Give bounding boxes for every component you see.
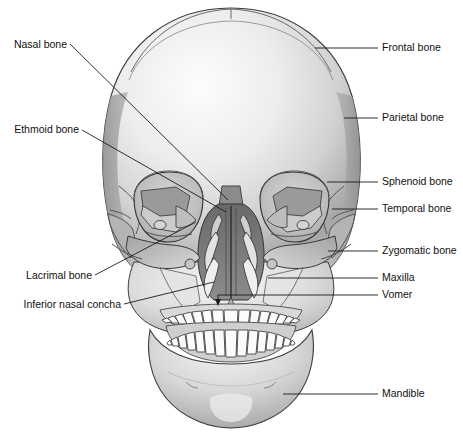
labels-right-group: Frontal bone Parietal bone Sphenoid bone… xyxy=(382,41,457,399)
label-vomer: Vomer xyxy=(382,288,413,300)
label-nasal-bone: Nasal bone xyxy=(14,38,67,50)
label-sphenoid-bone: Sphenoid bone xyxy=(382,175,453,187)
skull-diagram-figure: Nasal bone Ethmoid bone Lacrimal bone In… xyxy=(0,0,463,437)
label-zygomatic-bone: Zygomatic bone xyxy=(382,244,457,256)
label-lacrimal-bone: Lacrimal bone xyxy=(26,269,92,281)
label-mandible: Mandible xyxy=(382,387,425,399)
left-optic-canal xyxy=(154,221,166,230)
label-maxilla: Maxilla xyxy=(382,271,415,283)
left-infraorbital-foramen xyxy=(185,259,195,269)
right-infraorbital-foramen xyxy=(267,259,277,269)
lower-teeth-row xyxy=(167,330,295,357)
label-inferior-nasal-concha: Inferior nasal concha xyxy=(24,298,122,310)
label-parietal-bone: Parietal bone xyxy=(382,111,444,123)
skull-illustration: Nasal bone Ethmoid bone Lacrimal bone In… xyxy=(0,0,463,437)
right-optic-canal xyxy=(297,221,309,230)
label-ethmoid-bone: Ethmoid bone xyxy=(14,123,79,135)
label-temporal-bone: Temporal bone xyxy=(382,202,452,214)
nasal-bones xyxy=(219,186,243,206)
label-frontal-bone: Frontal bone xyxy=(382,41,441,53)
teeth-group xyxy=(160,304,302,362)
